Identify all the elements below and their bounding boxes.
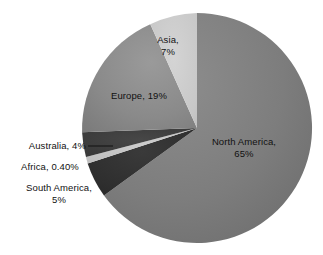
pie-label-south-america: South America, 5% — [14, 182, 104, 206]
pie-chart-figure: Asia, 7% North America, 65% Europe, 19% … — [0, 0, 323, 255]
pie-label-africa: Africa, 0.40% — [8, 161, 92, 173]
pie-label-asia: Asia, 7% — [140, 34, 196, 57]
pie-label-north-america: North America, 65% — [205, 136, 283, 159]
pie-label-australia: Australia, 4% — [2, 140, 86, 152]
pie-slices — [82, 13, 312, 243]
pie-label-europe: Europe, 19% — [101, 90, 177, 102]
